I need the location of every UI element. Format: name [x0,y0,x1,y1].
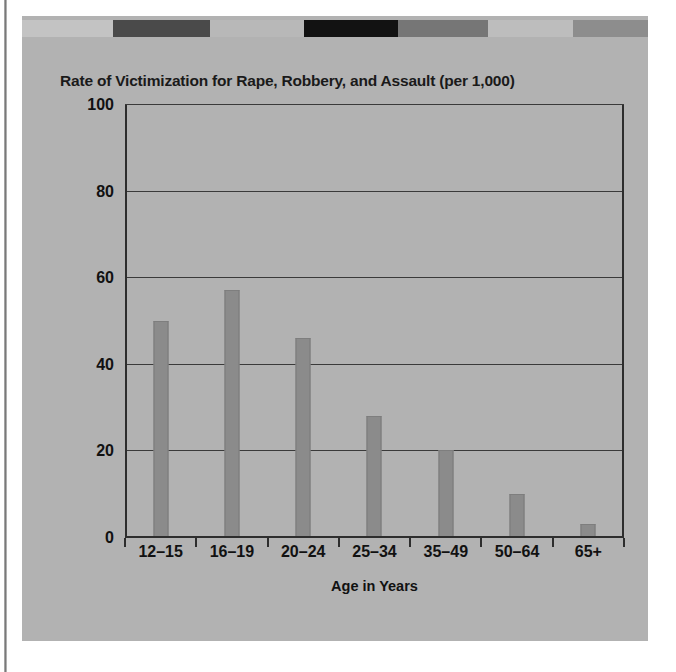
bar-band [481,105,552,538]
decorative-color-band [22,20,648,37]
y-axis-tick-label: 0 [105,529,114,547]
y-axis-tick-label: 60 [96,269,114,287]
y-axis-tick-label: 100 [87,96,114,114]
y-axis-tick-labels: 020406080100 [46,105,114,538]
y-axis-tick-label: 20 [96,442,114,460]
segment-light-3 [488,20,573,37]
x-axis-tick-label: 12–15 [138,543,183,561]
bars-layer [125,105,624,538]
bar-band [410,105,481,538]
segment-light-1 [22,20,113,37]
segment-light-2 [210,20,304,37]
y-axis-tick-label: 40 [96,356,114,374]
bar[interactable] [367,416,382,538]
bar-band [268,105,339,538]
bar[interactable] [296,338,311,538]
segment-mid-2 [573,20,648,37]
bar-band [339,105,410,538]
x-axis-tick-labels: 12–1516–1920–2425–3435–4950–6465+ [125,543,624,569]
plot-area [125,105,624,538]
figure-panel: Rate of Victimization for Rape, Robbery,… [22,16,648,641]
bar[interactable] [510,494,525,538]
x-axis-title: Age in Years [125,578,624,594]
x-axis-tick-label: 35–49 [424,543,469,561]
bar[interactable] [153,321,168,539]
x-axis-tick-label: 25–34 [352,543,397,561]
x-axis-tick-label: 16–19 [210,543,255,561]
segment-dark-1 [113,20,210,37]
bar[interactable] [224,290,239,538]
chart-title: Rate of Victimization for Rape, Robbery,… [60,72,515,90]
segment-mid-1 [398,20,489,37]
x-axis-tick-label: 20–24 [281,543,326,561]
page-edge-rule [4,0,7,672]
segment-black [304,20,398,37]
x-axis-tick-label: 65+ [575,543,602,561]
bar-band [553,105,624,538]
x-axis-tick-label: 50–64 [495,543,540,561]
x-axis-line [125,536,624,538]
bar[interactable] [438,450,453,538]
bar-band [196,105,267,538]
bar-band [125,105,196,538]
y-axis-tick-label: 80 [96,183,114,201]
